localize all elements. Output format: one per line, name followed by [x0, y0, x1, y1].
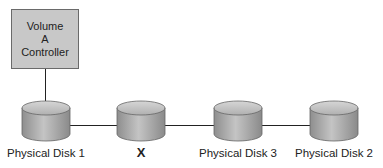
- connector-disk3-to-disk2: [262, 125, 310, 126]
- failed-disk-x-cylinder-icon: [116, 100, 166, 142]
- failed-disk-x-label: X: [86, 145, 196, 160]
- volume-a-controller-box: Volume A Controller: [11, 9, 79, 69]
- controller-label-line-2: A: [41, 33, 48, 46]
- physical-disk-3-label: Physical Disk 3: [183, 147, 293, 159]
- controller-connector-line: [45, 69, 46, 102]
- connector-disk1-to-x: [70, 125, 117, 126]
- physical-disk-2-label: Physical Disk 2: [279, 147, 383, 159]
- controller-label-line-1: Volume: [27, 20, 64, 33]
- physical-disk-3-cylinder-icon: [213, 100, 263, 142]
- controller-label-line-3: Controller: [21, 46, 69, 59]
- physical-disk-2-cylinder-icon: [309, 100, 359, 142]
- physical-disk-1-cylinder-icon: [21, 100, 71, 142]
